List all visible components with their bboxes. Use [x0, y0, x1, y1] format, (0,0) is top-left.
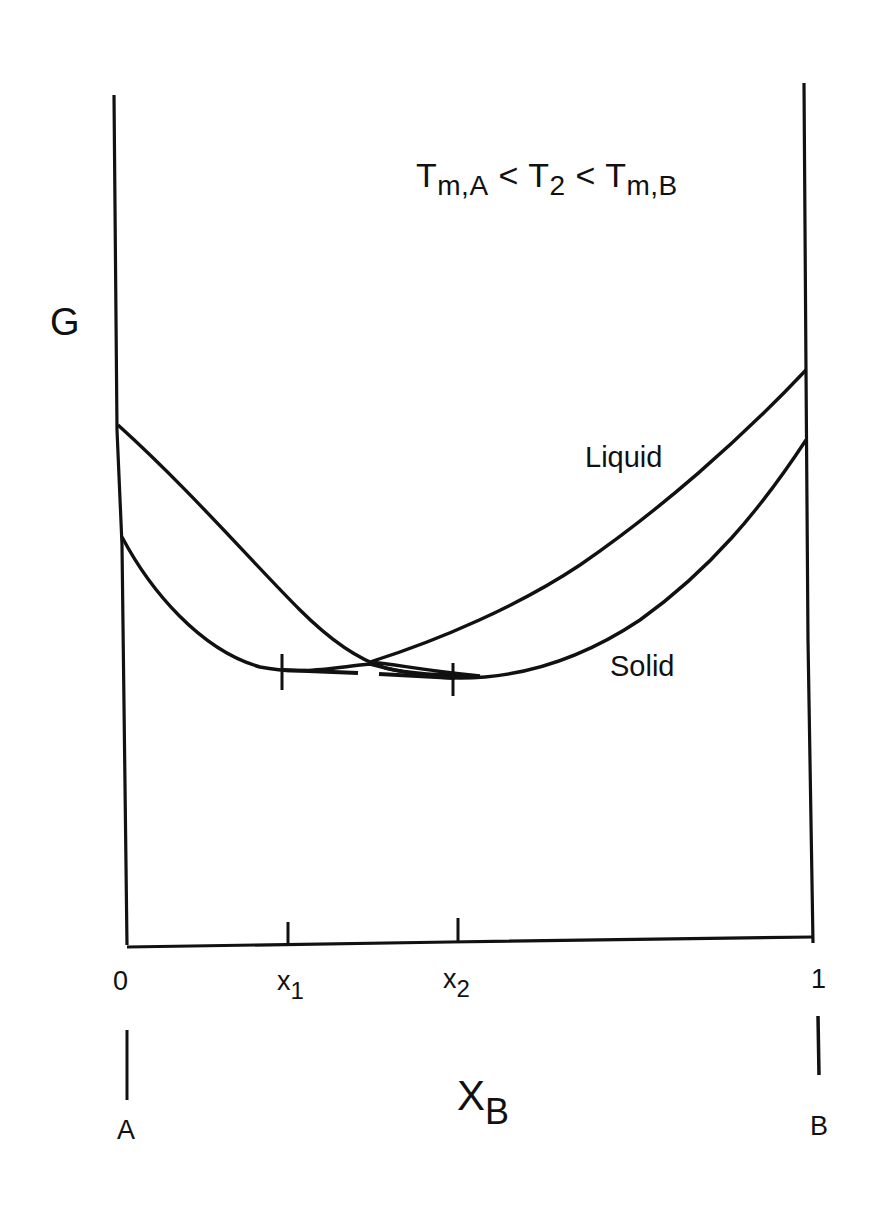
diagram-title: Tm,A < T2 < Tm,B — [416, 158, 678, 192]
solid-curve-label: Solid — [610, 652, 675, 681]
component-a-label: A — [117, 1117, 135, 1144]
b-marker-bar — [818, 1016, 819, 1075]
right-axis-line — [804, 83, 813, 943]
component-b-label: B — [810, 1113, 828, 1140]
x-axis-label: XB — [457, 1075, 509, 1117]
x-tick-label-1: 1 — [811, 966, 826, 993]
common-tangent-left — [283, 670, 358, 673]
solid-curve — [122, 440, 806, 678]
x-tick-label-0: 0 — [113, 968, 128, 995]
liquid-curve-label: Liquid — [585, 443, 662, 472]
y-axis-label: G — [50, 303, 80, 341]
x1-tick-label: x1 — [277, 968, 304, 995]
left-axis-line — [114, 95, 127, 945]
x2-tick-label: x2 — [443, 966, 470, 993]
x-axis-line — [127, 937, 813, 947]
liquid-curve — [118, 370, 806, 676]
